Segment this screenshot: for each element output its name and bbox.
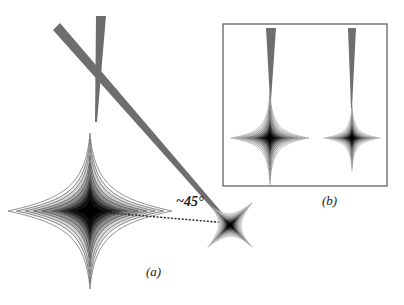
figure-canvas <box>0 0 404 305</box>
panel-b <box>223 24 387 186</box>
panel-b-label: (b) <box>322 193 337 209</box>
angle-label: ~45° <box>176 194 204 210</box>
panel-a-label: (a) <box>146 264 161 280</box>
inset-frame <box>223 24 387 186</box>
